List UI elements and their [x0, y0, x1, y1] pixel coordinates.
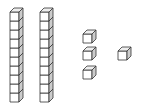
unit-cube [83, 30, 96, 43]
cube-front-face [40, 39, 49, 48]
unit-cube-shape [118, 47, 131, 60]
unit-cube-shape [83, 30, 96, 43]
cube-front-face [83, 51, 92, 60]
unit-cube [83, 66, 96, 79]
unit-cube-shape [83, 47, 96, 60]
cube-front-face [40, 21, 49, 30]
cube-front-face [10, 75, 19, 84]
cube-front-face [40, 84, 49, 93]
cube-front-face [40, 57, 49, 66]
cube-front-face [40, 12, 49, 21]
cube-front-face [10, 21, 19, 30]
cube-front-face [10, 48, 19, 57]
unit-cube-shape [83, 66, 96, 79]
cube-front-face [10, 12, 19, 21]
cube-front-face [10, 57, 19, 66]
unit-cube [118, 47, 131, 60]
cube-front-face [40, 93, 49, 102]
cube-front-face [83, 34, 92, 43]
cube-front-face [10, 66, 19, 75]
cube-front-face [118, 51, 127, 60]
tens-rod [10, 8, 23, 102]
cube-front-face [10, 39, 19, 48]
cube-front-face [40, 66, 49, 75]
rod-cube [10, 8, 23, 21]
cube-front-face [40, 48, 49, 57]
cube-front-face [10, 84, 19, 93]
base-ten-blocks-diagram [0, 0, 144, 111]
cube-front-face [10, 93, 19, 102]
cube-front-face [40, 30, 49, 39]
tens-rod [40, 8, 53, 102]
cube-front-face [10, 30, 19, 39]
cube-front-face [40, 75, 49, 84]
rod-cube [40, 8, 53, 21]
cube-front-face [83, 70, 92, 79]
unit-cube [83, 47, 96, 60]
